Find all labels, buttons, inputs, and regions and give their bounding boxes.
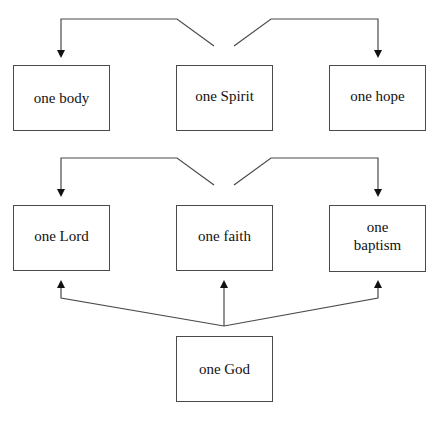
node-label: one baptism: [352, 218, 403, 254]
node-label: one Spirit: [195, 87, 254, 105]
arrow-god-to-baptism: [224, 284, 378, 326]
node-label: one God: [199, 360, 250, 378]
node-one-god: one God: [176, 336, 273, 402]
node-label: one body: [34, 89, 89, 107]
node-one-lord: one Lord: [13, 205, 110, 271]
arrow-faith-to-baptism: [234, 158, 378, 193]
node-label: one Lord: [34, 227, 89, 245]
arrow-god-to-lord: [61, 284, 224, 326]
node-one-spirit: one Spirit: [176, 65, 273, 131]
node-one-hope: one hope: [329, 65, 426, 131]
arrow-spirit-to-hope: [234, 19, 378, 54]
node-label: one faith: [198, 227, 251, 245]
node-one-baptism: one baptism: [329, 205, 426, 272]
arrow-faith-to-lord: [61, 158, 214, 193]
node-one-faith: one faith: [176, 205, 273, 271]
arrow-spirit-to-body: [61, 19, 214, 54]
node-one-body: one body: [13, 65, 110, 131]
node-label: one hope: [350, 87, 405, 105]
